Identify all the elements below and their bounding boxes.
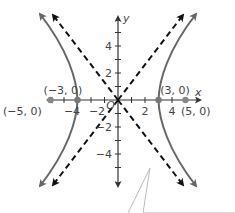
vertex-right-label: (3, 0): [160, 84, 190, 97]
y-tick-label-2: 2: [105, 67, 112, 80]
vertex-left-point: [74, 97, 80, 103]
asymptote-positive-slope-lower: [53, 100, 118, 185]
x-tick-label-neg4: −4: [64, 105, 80, 118]
x-axis-label: x: [194, 86, 202, 99]
focus-right-label: (5, 0): [181, 105, 211, 118]
y-tick-label-4: 4: [105, 40, 112, 53]
x-tick-label-4: 4: [169, 105, 176, 118]
vertex-right-point: [155, 97, 161, 103]
y-axis-label: y: [122, 12, 130, 25]
focus-left-point: [47, 97, 53, 103]
callout-pointer: [128, 168, 235, 213]
x-tick-label-2: 2: [142, 105, 149, 118]
focus-right-point: [182, 97, 188, 103]
vertex-left-label: (−3, 0): [44, 84, 83, 97]
x-tick-label-neg2: −2: [89, 105, 105, 118]
y-tick-label-neg2: −2: [96, 121, 112, 134]
focus-left-label: (−5, 0): [3, 105, 42, 118]
y-tick-label-neg4: −4: [96, 148, 112, 161]
origin-label: O: [106, 99, 115, 112]
hyperbola-graph: x y: [0, 0, 235, 213]
